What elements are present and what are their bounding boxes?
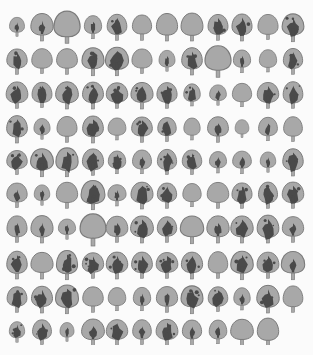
variegation-spot [88,162,90,164]
variegation-spot [268,89,270,91]
variegation-spot [220,25,223,28]
variegation-spot [95,128,99,132]
midrib-dark [217,230,219,236]
variegation-spot [162,187,165,190]
midrib-dark [241,266,244,272]
leaf-blade [132,15,151,34]
leaf-blade [80,214,106,238]
variegation-spot [242,187,244,189]
leaf-blade [32,49,53,68]
midrib-dark [16,266,18,272]
variegation-spot [286,17,289,20]
variegation-spot [234,260,238,264]
variegation-spot [18,132,20,134]
midrib-dark [267,266,269,272]
leaf-blade [180,216,203,237]
variegation-spot [12,332,14,334]
variegation-spot [12,258,15,261]
variegation-spot [189,289,192,292]
variegation-spot [20,324,22,326]
midrib-dark [292,28,295,34]
variegation-spot [292,18,294,20]
variegation-spot [39,97,42,100]
variegation-spot [89,128,92,131]
midrib-dark [141,230,143,236]
midrib-dark [41,230,43,236]
variegation-spot [41,92,44,95]
variegation-spot [270,302,273,305]
variegation-spot [65,156,69,160]
variegation-spot [68,92,70,94]
variegation-spot [266,185,269,188]
midrib-dark [292,230,294,236]
bottom-crop [0,345,313,355]
variegation-spot [37,164,40,167]
variegation-spot [113,88,117,92]
variegation-spot [214,290,216,292]
midrib-dark [166,196,168,202]
midrib-dark [116,163,118,168]
midrib-dark [116,196,118,201]
variegation-spot [13,86,17,90]
variegation-spot [169,88,172,91]
variegation-spot [85,263,87,265]
midrib-dark [191,96,193,101]
midrib-dark [141,163,143,168]
variegation-spot [16,297,18,299]
midrib-dark [141,266,143,272]
midrib-dark [141,333,143,338]
variegation-spot [191,93,192,94]
variegation-spot [192,55,196,59]
leaf-blade [231,319,254,339]
midrib-dark [241,300,243,305]
variegation-spot [260,300,264,304]
variegation-spot [263,259,265,261]
variegation-spot [115,325,117,327]
variegation-spot [72,154,74,156]
variegation-spot [289,161,291,163]
midrib-dark [166,96,168,102]
midrib-dark [217,163,219,168]
variegation-spot [164,125,167,128]
variegation-spot [115,20,118,23]
variegation-spot [147,188,150,191]
leaf-blade [156,13,177,35]
variegation-spot [13,263,16,266]
variegation-spot [172,162,174,164]
leaf-blade [57,117,77,137]
midrib-dark [166,62,168,67]
variegation-spot [63,97,67,101]
variegation-spot [165,228,169,232]
variegation-spot [68,254,71,257]
midrib-dark [217,96,219,101]
variegation-spot [34,295,38,299]
variegation-spot [271,296,273,298]
midrib-dark [166,300,168,306]
variegation-spot [143,225,146,228]
variegation-spot [134,231,136,233]
midrib-dark [141,130,143,136]
midrib-dark [267,230,269,236]
variegation-spot [264,219,267,222]
midrib-dark [141,96,143,102]
midrib-dark [41,130,43,135]
midrib-dark [16,230,18,236]
variegation-spot [38,160,40,162]
midrib-dark [241,196,243,202]
midrib-dark [292,266,295,272]
variegation-spot [16,290,19,293]
variegation-spot [62,267,66,271]
variegation-spot [11,154,14,157]
variegation-spot [264,192,266,194]
variegation-spot [186,259,189,262]
leaf-blade [56,182,77,202]
variegation-spot [13,328,16,331]
variegation-spot [197,265,199,267]
midrib-dark [191,62,193,68]
midrib-dark [166,130,168,135]
variegation-spot [290,195,292,197]
variegation-spot [237,232,240,235]
variegation-spot [88,265,90,267]
leaf-blade [181,13,203,35]
variegation-spot [110,328,112,330]
